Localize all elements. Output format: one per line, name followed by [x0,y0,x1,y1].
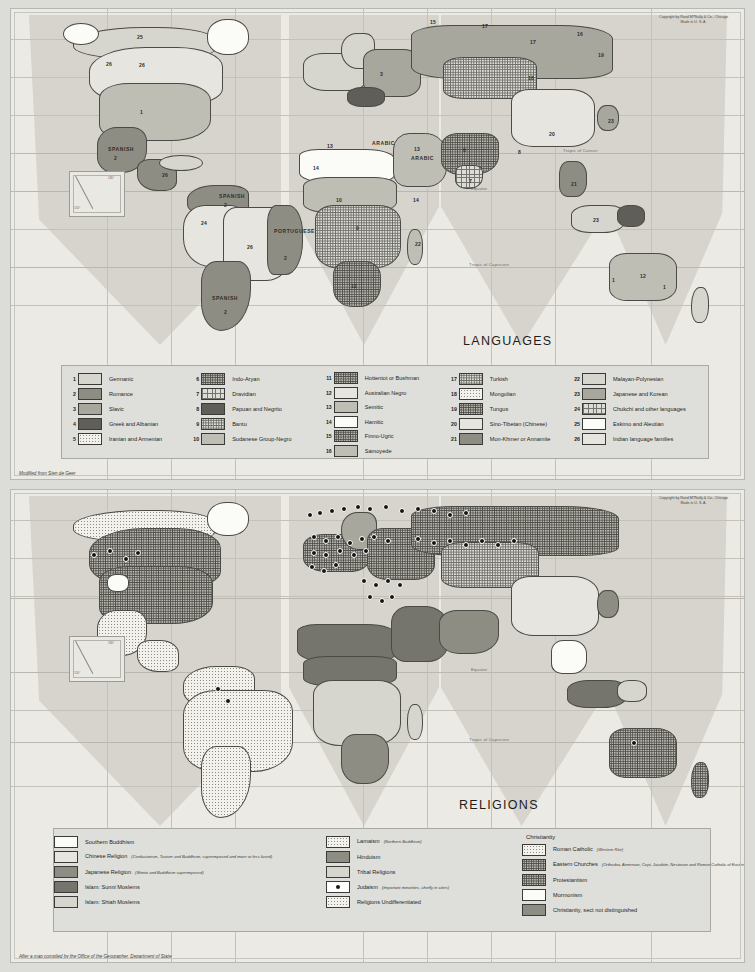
map-label: 21 [571,181,577,187]
legend-item[interactable]: 23Japanese and Korean [566,386,708,401]
legend-item[interactable]: 26Indian language families [566,432,708,447]
legend-item[interactable]: 25Eskimo and Aleutian [566,417,708,432]
legend-item[interactable]: 20Sino-Tibetan (Chinese) [443,417,566,432]
map-label: 20 [549,131,555,137]
map-label: 2 [224,202,227,208]
legend-item-number: 25 [566,421,582,427]
legend-item[interactable]: Eastern Churches(Orthodox, Armenian, Cop… [522,857,710,872]
map-label: 19 [598,52,604,58]
legend-color-swatch [522,889,546,901]
map-label: 18 [528,75,534,81]
legend-item-number: 22 [566,376,582,382]
legend-color-swatch [522,874,546,886]
legend-item[interactable]: Southern Buddhism [54,834,326,849]
legend-item[interactable]: Christianity, sect not distinguished [522,903,710,918]
legend-item[interactable]: 14Hamitic [318,415,443,430]
legend-color-swatch [334,430,358,442]
map-label: ARABIC [372,140,395,146]
legend-item[interactable]: Mormonism [522,888,710,903]
legend-color-swatch [78,388,102,400]
map-label: 13 [414,146,420,152]
legend-item-label: Eastern Churches [553,861,598,867]
legend-item[interactable]: 21Mon-Khmer or Annamite [443,432,566,447]
map-label: 1 [663,284,666,290]
legend-item-label: Slavic [102,406,124,412]
legend-column: Southern BuddhismChinese Religion(Confuc… [54,829,326,931]
landmass-mormon-region [107,574,129,592]
legend-color-swatch [78,433,102,445]
legend-color-swatch [201,388,225,400]
legend-item[interactable]: 22Malayan-Polynesian [566,371,708,386]
legend-item[interactable]: 17Turkish [443,371,566,386]
legend-item-label: Chinese Religion [85,853,127,859]
legend-color-swatch [334,372,358,384]
legend-item-label: Australian Negro [358,390,407,396]
legend-item[interactable]: 12Australian Negro [318,386,443,401]
landmass-new-zealand [691,762,709,798]
legend-item[interactable]: Japanese Religion(Shinto and Buddhism su… [54,864,326,879]
legend-item[interactable]: 10Sudanese Group-Negro [185,432,318,447]
legend-item[interactable]: 6Indo-Aryan [185,371,318,386]
legend-item[interactable]: Religions Undifferentiated [326,895,522,910]
legend-item[interactable]: Judaism(Important minorities, chiefly in… [326,880,522,895]
legend-item[interactable]: 1Germanic [62,371,185,386]
legend-item[interactable]: Protestantism [522,872,710,887]
legend-item[interactable]: 3Slavic [62,401,185,416]
legend-item-label: Islam: Shiah Moslems [85,899,140,905]
legend-item-label: Papuan and Negrito [225,406,282,412]
legend-item[interactable]: 11Hottentot or Bushman [318,371,443,386]
legend-item-label: Tribal Religions [357,869,395,875]
legend-column: 17Turkish18Mongolian19Tungus20Sino-Tibet… [443,366,566,458]
legend-item[interactable]: 4Greek and Albanian [62,417,185,432]
map-label: 22 [415,241,421,247]
legend-item-label: Semitic [358,404,383,410]
legend-color-swatch [334,416,358,428]
languages-legend[interactable]: 1Germanic2Romance3Slavic4Greek and Alban… [61,365,709,459]
legend-item-label: Tungus [483,406,508,412]
legend-item[interactable]: 5Iranian and Armenian [62,432,185,447]
legend-item[interactable]: 2Romance [62,386,185,401]
atlas-page: Tropic of Cancer Equator Tropic of Capri… [0,0,755,972]
map-label: 3 [380,71,383,77]
legend-color-swatch [582,433,606,445]
legend-item[interactable]: Tribal Religions [326,864,522,879]
legend-item-label: Dravidian [225,391,256,397]
legend-item[interactable]: 19Tungus [443,401,566,416]
legend-item-note: (Western Rite) [593,848,623,853]
legend-item-number: 16 [318,448,334,454]
graticule-line [11,786,744,787]
legend-color-swatch [326,866,350,878]
legend-item-number: 26 [566,436,582,442]
legend-color-swatch [201,403,225,415]
legend-item-label: Southern Buddhism [85,839,134,845]
legend-item-number: 5 [62,436,78,442]
landmass-madagascar [407,229,423,265]
legend-item[interactable]: 18Mongolian [443,386,566,401]
legend-item[interactable]: 9Bantu [185,417,318,432]
legend-item-label: Malayan-Polynesian [606,376,663,382]
legend-item[interactable]: 8Papuan and Negrito [185,401,318,416]
equator-label: Equator [471,667,487,672]
legend-item-label: Islam: Sunni Moslems [85,884,140,890]
legend-item[interactable]: 16Samoyede [318,444,443,459]
legend-color-swatch [522,859,546,871]
legend-item[interactable]: 13Semitic [318,400,443,415]
legend-item[interactable]: Hinduism [326,849,522,864]
legend-item[interactable]: 7Dravidian [185,386,318,401]
legend-item[interactable]: Islam: Sunni Moslems [54,880,326,895]
religions-legend[interactable]: Southern BuddhismChinese Religion(Confuc… [53,828,711,932]
legend-item-label: Hottentot or Bushman [358,375,419,381]
legend-item[interactable]: Islam: Shiah Moslems [54,895,326,910]
legend-item[interactable]: Chinese Religion(Confucianism, Taoism an… [54,849,326,864]
legend-item[interactable]: 24Chukchi and other languages [566,401,708,416]
tropic-of-cancer-label: Tropic of Cancer [563,148,598,153]
legend-item[interactable]: 15Finno-Ugric [318,429,443,444]
legend-item[interactable]: Roman Catholic(Western Rite) [522,842,710,857]
legend-column: 11Hottentot or Bushman12Australian Negro… [318,366,443,458]
legend-color-swatch [54,836,78,848]
map-label: 16 [577,31,583,37]
legend-item-label: Eskimo and Aleutian [606,421,664,427]
legend-column: 1Germanic2Romance3Slavic4Greek and Alban… [62,366,185,458]
legend-item[interactable]: Lamaism(Northern Buddhism) [326,834,522,849]
legend-color-swatch [459,403,483,415]
